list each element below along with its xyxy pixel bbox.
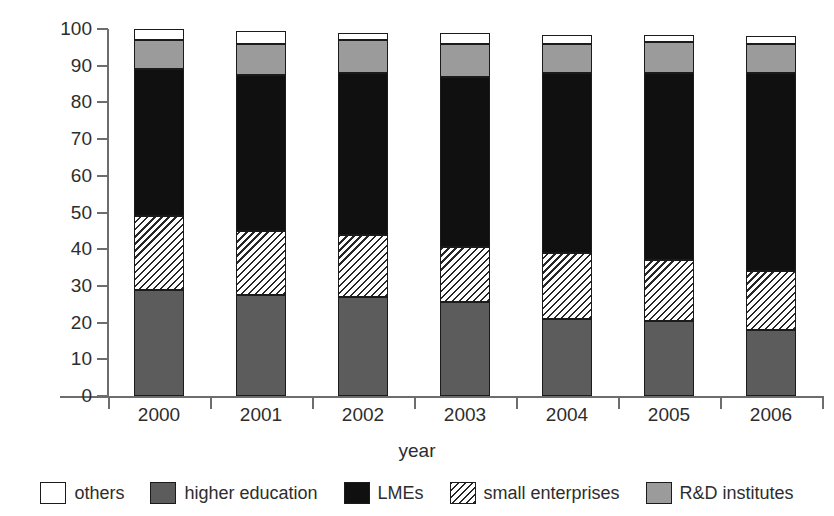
x-axis-tick-label-2006: 2006	[726, 404, 816, 426]
y-axis-tick: 60	[48, 166, 108, 186]
bar-segment-smallenterprises-2000[interactable]	[134, 216, 184, 289]
bar-segment-highereducation-2002[interactable]	[338, 297, 388, 396]
legend-item-lmes[interactable]: LMEs	[344, 482, 424, 504]
x-axis-line	[60, 396, 824, 398]
bar-2003[interactable]	[440, 29, 490, 396]
bar-segment-others-2004[interactable]	[542, 35, 592, 44]
bar-segment-smallenterprises-2004[interactable]	[542, 253, 592, 319]
bar-2002[interactable]	[338, 29, 388, 396]
x-axis-tick-mark	[516, 398, 518, 409]
bar-segment-highereducation-2005[interactable]	[644, 321, 694, 396]
bar-segment-lmes-2003[interactable]	[440, 77, 490, 248]
y-axis-tick-label: 100	[48, 19, 92, 39]
bar-segment-smallenterprises-2002[interactable]	[338, 235, 388, 297]
bar-segment-others-2002[interactable]	[338, 33, 388, 40]
black-square-swatch	[344, 482, 370, 504]
x-axis-tick-mark	[822, 398, 824, 409]
dark-gray-square-swatch	[150, 482, 176, 504]
hatched-square-swatch	[450, 482, 476, 504]
legend-label: others	[74, 483, 124, 504]
bar-segment-smallenterprises-2005[interactable]	[644, 260, 694, 321]
bar-segment-rdinstitutes-2002[interactable]	[338, 40, 388, 73]
bar-segment-lmes-2005[interactable]	[644, 73, 694, 260]
bar-segment-lmes-2000[interactable]	[134, 69, 184, 216]
bar-segment-smallenterprises-2001[interactable]	[236, 231, 286, 295]
y-axis-tick-mark	[97, 358, 108, 360]
y-axis-tick-mark	[97, 285, 108, 287]
legend-label: R&D institutes	[680, 483, 794, 504]
bar-segment-rdinstitutes-2005[interactable]	[644, 42, 694, 73]
bar-segment-rdinstitutes-2003[interactable]	[440, 44, 490, 77]
y-axis-tick: 90	[48, 56, 108, 76]
bar-segment-highereducation-2004[interactable]	[542, 319, 592, 396]
legend-item-highereducation[interactable]: higher education	[150, 482, 317, 504]
y-axis-tick-label: 70	[48, 129, 92, 149]
bar-segment-others-2001[interactable]	[236, 31, 286, 44]
legend-label: small enterprises	[484, 483, 620, 504]
bar-segment-smallenterprises-2006[interactable]	[746, 271, 796, 330]
bar-2006[interactable]	[746, 29, 796, 396]
y-axis-tick-mark	[97, 28, 108, 30]
bar-2004[interactable]	[542, 29, 592, 396]
bar-segment-lmes-2002[interactable]	[338, 73, 388, 234]
bar-segment-smallenterprises-2003[interactable]	[440, 247, 490, 302]
y-axis-tick: 0	[48, 386, 108, 406]
light-gray-square-swatch	[646, 482, 672, 504]
bar-2005[interactable]	[644, 29, 694, 396]
y-axis-tick-label: 0	[48, 386, 92, 406]
y-axis-tick: 10	[48, 349, 108, 369]
y-axis-tick: 30	[48, 276, 108, 296]
y-axis-tick: 40	[48, 239, 108, 259]
y-axis-tick: 80	[48, 92, 108, 112]
bar-segment-rdinstitutes-2001[interactable]	[236, 44, 286, 75]
bar-segment-rdinstitutes-2006[interactable]	[746, 44, 796, 73]
legend-item-others[interactable]: others	[40, 482, 124, 504]
bar-2000[interactable]	[134, 29, 184, 396]
bar-segment-rdinstitutes-2004[interactable]	[542, 44, 592, 73]
y-axis-tick-mark	[97, 138, 108, 140]
legend-label: higher education	[184, 483, 317, 504]
legend-item-smallenterprises[interactable]: small enterprises	[450, 482, 620, 504]
y-axis-tick: 70	[48, 129, 108, 149]
bar-segment-highereducation-2006[interactable]	[746, 330, 796, 396]
legend-label: LMEs	[378, 483, 424, 504]
bar-2001[interactable]	[236, 29, 286, 396]
x-axis-tick-label-2005: 2005	[624, 404, 714, 426]
x-axis-tick-mark	[210, 398, 212, 409]
y-axis-tick-mark	[97, 395, 108, 397]
bar-segment-rdinstitutes-2000[interactable]	[134, 40, 184, 69]
y-axis-tick-mark	[97, 322, 108, 324]
bar-segment-highereducation-2000[interactable]	[134, 290, 184, 396]
legend-item-rdinstitutes[interactable]: R&D institutes	[646, 482, 794, 504]
y-axis-tick-mark	[97, 212, 108, 214]
x-axis-tick-label-2000: 2000	[114, 404, 204, 426]
bar-segment-lmes-2004[interactable]	[542, 73, 592, 253]
x-axis-tick-mark	[720, 398, 722, 409]
x-axis-tick-label-2002: 2002	[318, 404, 408, 426]
bar-segment-lmes-2006[interactable]	[746, 73, 796, 271]
y-axis-tick-label: 90	[48, 56, 92, 76]
bar-segment-others-2003[interactable]	[440, 33, 490, 44]
y-axis-tick: 20	[48, 313, 108, 333]
y-axis-tick-mark	[97, 101, 108, 103]
bar-segment-others-2000[interactable]	[134, 29, 184, 40]
bar-segment-lmes-2001[interactable]	[236, 75, 286, 231]
plot-area	[108, 29, 822, 396]
y-axis-tick-label: 30	[48, 276, 92, 296]
bar-segment-others-2006[interactable]	[746, 36, 796, 43]
y-axis-tick-mark	[97, 175, 108, 177]
y-axis-tick-label: 10	[48, 349, 92, 369]
y-axis-tick: 50	[48, 203, 108, 223]
y-axis-tick-mark	[97, 65, 108, 67]
x-axis-tick-label-2004: 2004	[522, 404, 612, 426]
x-axis-tick-mark	[108, 398, 110, 409]
rd-expenditure-stacked-bar-chart: R&D expenditure (%) 01020304050607080901…	[0, 0, 834, 516]
bar-segment-others-2005[interactable]	[644, 35, 694, 42]
x-axis-tick-label-2003: 2003	[420, 404, 510, 426]
y-axis-tick-label: 50	[48, 203, 92, 223]
y-axis-tick: 100	[48, 19, 108, 39]
bar-segment-highereducation-2001[interactable]	[236, 295, 286, 396]
y-axis-tick-label: 80	[48, 92, 92, 112]
bar-segment-highereducation-2003[interactable]	[440, 302, 490, 396]
white-square-swatch	[40, 482, 66, 504]
